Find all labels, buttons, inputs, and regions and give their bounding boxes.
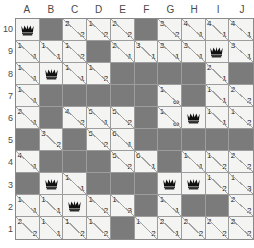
- grid-cell-a10[interactable]: [16, 19, 40, 41]
- grid-cell-h3[interactable]: [182, 173, 206, 195]
- grid-cell-a9[interactable]: 11: [16, 41, 40, 63]
- grid-cell-d8[interactable]: 12: [87, 63, 111, 85]
- grid-cell-e6[interactable]: 52: [111, 107, 135, 129]
- grid-cell-a1[interactable]: 22: [16, 217, 40, 239]
- grid-cell-h10[interactable]: 41: [182, 19, 206, 41]
- grid-cell-j1[interactable]: 22: [229, 217, 253, 239]
- grid-cell-g4[interactable]: [158, 151, 182, 173]
- grid-cell-h8[interactable]: [182, 63, 206, 85]
- grid-cell-i4[interactable]: 12: [206, 151, 230, 173]
- grid-cell-c1[interactable]: 12: [63, 217, 87, 239]
- grid-cell-d4[interactable]: [87, 151, 111, 173]
- grid-cell-g8[interactable]: [158, 63, 182, 85]
- grid-cell-b3[interactable]: [40, 173, 64, 195]
- grid-cell-g10[interactable]: 32: [158, 19, 182, 41]
- grid-cell-f6[interactable]: [135, 107, 159, 129]
- grid-cell-i1[interactable]: 22: [206, 217, 230, 239]
- grid-cell-j4[interactable]: 22: [229, 151, 253, 173]
- grid-cell-j5[interactable]: [229, 129, 253, 151]
- grid-cell-b10[interactable]: [40, 19, 64, 41]
- grid-cell-a4[interactable]: 41: [16, 151, 40, 173]
- grid-cell-a7[interactable]: 11: [16, 85, 40, 107]
- grid-cell-b4[interactable]: [40, 151, 64, 173]
- grid-cell-c9[interactable]: 12: [63, 41, 87, 63]
- grid-cell-e7[interactable]: [111, 85, 135, 107]
- grid-cell-c10[interactable]: 22: [63, 19, 87, 41]
- grid-cell-f7[interactable]: [135, 85, 159, 107]
- grid-cell-a2[interactable]: 11: [16, 195, 40, 217]
- grid-cell-d10[interactable]: 12: [87, 19, 111, 41]
- grid-cell-d1[interactable]: 12: [87, 217, 111, 239]
- grid-cell-g5[interactable]: [158, 129, 182, 151]
- grid-cell-g2[interactable]: 11: [158, 195, 182, 217]
- grid-cell-h9[interactable]: 31: [182, 41, 206, 63]
- grid-cell-j6[interactable]: 12: [229, 107, 253, 129]
- grid-cell-g6[interactable]: 1∞: [158, 107, 182, 129]
- grid-cell-d3[interactable]: [87, 173, 111, 195]
- grid-cell-i5[interactable]: [206, 129, 230, 151]
- grid-cell-g9[interactable]: 31: [158, 41, 182, 63]
- grid-cell-f5[interactable]: [135, 129, 159, 151]
- grid-cell-c3[interactable]: 11: [63, 173, 87, 195]
- grid-cell-i6[interactable]: 11: [206, 107, 230, 129]
- grid-cell-f4[interactable]: 61: [135, 151, 159, 173]
- grid-cell-i3[interactable]: 12: [206, 173, 230, 195]
- grid-cell-e10[interactable]: 22: [111, 19, 135, 41]
- grid-cell-c4[interactable]: [63, 151, 87, 173]
- grid-cell-i7[interactable]: 11: [206, 85, 230, 107]
- grid-cell-b9[interactable]: 11: [40, 41, 64, 63]
- grid-cell-j7[interactable]: 22: [229, 85, 253, 107]
- grid-cell-h6[interactable]: [182, 107, 206, 129]
- grid-cell-c2[interactable]: [63, 195, 87, 217]
- grid-cell-h2[interactable]: [182, 195, 206, 217]
- grid-cell-d9[interactable]: [87, 41, 111, 63]
- grid-cell-e1[interactable]: [111, 217, 135, 239]
- grid-cell-e4[interactable]: 52: [111, 151, 135, 173]
- grid-cell-d2[interactable]: 12: [87, 195, 111, 217]
- grid-cell-a3[interactable]: [16, 173, 40, 195]
- grid-cell-g1[interactable]: 21: [158, 217, 182, 239]
- grid-cell-e9[interactable]: 21: [111, 41, 135, 63]
- grid-cell-b2[interactable]: 11: [40, 195, 64, 217]
- grid-cell-f3[interactable]: [135, 173, 159, 195]
- grid-cell-f10[interactable]: [135, 19, 159, 41]
- grid-cell-e2[interactable]: 13: [111, 195, 135, 217]
- grid-cell-b5[interactable]: 32: [40, 129, 64, 151]
- grid-cell-i9[interactable]: [206, 41, 230, 63]
- puzzle-grid[interactable]: 2212223241414111111221313131311111122111…: [15, 18, 254, 240]
- grid-cell-h7[interactable]: [182, 85, 206, 107]
- grid-cell-b1[interactable]: 11: [40, 217, 64, 239]
- grid-cell-c7[interactable]: [63, 85, 87, 107]
- grid-cell-b7[interactable]: [40, 85, 64, 107]
- grid-cell-f1[interactable]: 12: [135, 217, 159, 239]
- grid-cell-b6[interactable]: [40, 107, 64, 129]
- grid-cell-j3[interactable]: 13: [229, 173, 253, 195]
- grid-cell-d5[interactable]: 52: [87, 129, 111, 151]
- grid-cell-c8[interactable]: 11: [63, 63, 87, 85]
- grid-cell-j8[interactable]: [229, 63, 253, 85]
- grid-cell-c5[interactable]: [63, 129, 87, 151]
- grid-cell-e8[interactable]: [111, 63, 135, 85]
- grid-cell-i8[interactable]: 21: [206, 63, 230, 85]
- grid-cell-f2[interactable]: [135, 195, 159, 217]
- grid-cell-g3[interactable]: [158, 173, 182, 195]
- grid-cell-c6[interactable]: 42: [63, 107, 87, 129]
- grid-cell-e3[interactable]: [111, 173, 135, 195]
- grid-cell-d7[interactable]: [87, 85, 111, 107]
- grid-cell-f8[interactable]: [135, 63, 159, 85]
- grid-cell-i10[interactable]: 41: [206, 19, 230, 41]
- grid-cell-g7[interactable]: 1∞: [158, 85, 182, 107]
- grid-cell-a6[interactable]: 21: [16, 107, 40, 129]
- grid-cell-b8[interactable]: [40, 63, 64, 85]
- grid-cell-f9[interactable]: 31: [135, 41, 159, 63]
- grid-cell-j2[interactable]: 22: [229, 195, 253, 217]
- grid-cell-a5[interactable]: [16, 129, 40, 151]
- grid-cell-h5[interactable]: [182, 129, 206, 151]
- grid-cell-d6[interactable]: 51: [87, 107, 111, 129]
- grid-cell-a8[interactable]: 11: [16, 63, 40, 85]
- grid-cell-i2[interactable]: [206, 195, 230, 217]
- grid-cell-h1[interactable]: 22: [182, 217, 206, 239]
- grid-cell-e5[interactable]: 61: [111, 129, 135, 151]
- grid-cell-j10[interactable]: 41: [229, 19, 253, 41]
- grid-cell-h4[interactable]: 11: [182, 151, 206, 173]
